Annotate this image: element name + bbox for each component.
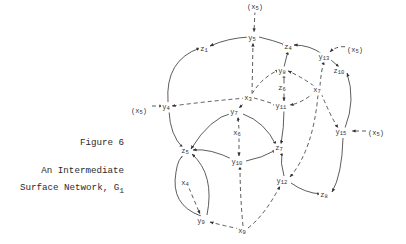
edge-y15-to-z8 — [332, 138, 343, 192]
node-y5: y5 — [247, 34, 257, 44]
edge-y9-to-z5 — [192, 154, 209, 215]
edge-x7-to-y12 — [290, 95, 318, 177]
node-layer: (x5)y5z1z4y13(x5)z10y8z6x7x3y11(x5)y4y7x… — [130, 3, 386, 237]
edge-y15-to-z10 — [345, 73, 351, 128]
edge-y12-to-z8 — [291, 183, 321, 194]
node-x3: x3 — [243, 94, 253, 104]
edge-y4-to-z1 — [168, 48, 200, 102]
node-y8: y8 — [277, 67, 287, 77]
node-z6: z6 — [277, 84, 287, 94]
node-y4: y4 — [161, 103, 171, 113]
node-x5_top: (x5) — [246, 3, 265, 13]
node-x4: x4 — [180, 179, 190, 189]
node-y12: y12 — [275, 177, 290, 187]
node-x5_rt: (x5) — [346, 46, 365, 56]
edge-x6-to-y7 — [238, 117, 239, 129]
edge-x9-to-y12 — [248, 186, 280, 228]
edge-y8-to-z4 — [284, 51, 288, 67]
edge-layer — [152, 11, 373, 229]
node-x6: x6 — [232, 129, 242, 139]
edge-x5_top-to-y5 — [254, 11, 255, 32]
node-z1: z1 — [199, 45, 209, 55]
node-y11: y11 — [274, 102, 289, 112]
edge-x9-to-y10 — [240, 166, 243, 226]
surface-network-diagram: (x5)y5z1z4y13(x5)z10y8z6x7x3y11(x5)y4y7x… — [0, 0, 406, 244]
node-x5_rt2: (x5) — [367, 129, 386, 139]
edge-x3-to-y4 — [172, 98, 246, 106]
node-x5_left: (x5) — [130, 107, 149, 117]
node-x7: x7 — [312, 86, 322, 96]
edge-x4-to-y9 — [189, 188, 200, 214]
edge-y10-to-z5 — [193, 150, 234, 160]
node-z8: z8 — [319, 191, 329, 201]
node-y9: y9 — [196, 217, 206, 227]
edge-y11-to-z7 — [281, 110, 284, 144]
node-y10: y10 — [230, 158, 245, 168]
node-z4: z4 — [283, 43, 293, 53]
edge-y12-to-z7 — [281, 152, 284, 176]
node-x9: x9 — [237, 227, 247, 237]
node-z5: z5 — [180, 147, 190, 157]
edge-x3-to-y11 — [254, 98, 277, 105]
edge-y4-to-z5 — [169, 111, 183, 148]
node-y13: y13 — [317, 53, 332, 63]
node-z10: z10 — [332, 67, 347, 77]
edge-x9-to-y9 — [210, 222, 240, 229]
edge-x3-to-y8 — [252, 70, 279, 94]
node-y15: y15 — [334, 128, 349, 138]
edge-y7-to-z5 — [191, 113, 232, 149]
edge-x7-to-y13 — [320, 61, 324, 86]
node-y7: y7 — [229, 108, 239, 118]
edge-y7-to-z7 — [243, 114, 276, 145]
edge-x7-to-y8 — [288, 71, 314, 86]
edge-x7-to-y15 — [321, 93, 338, 128]
edge-y5-to-z1 — [210, 37, 249, 46]
node-z7: z7 — [274, 144, 284, 154]
edge-y10-to-z7 — [246, 150, 276, 161]
edge-y5-to-z4 — [259, 37, 286, 45]
edge-x3-to-y5 — [252, 43, 253, 94]
edge-x7-to-y11 — [290, 92, 315, 105]
